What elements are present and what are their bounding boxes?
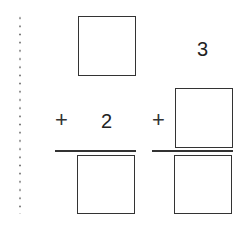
right-sum-answer-box[interactable] [174,155,232,214]
right-sum-line [152,150,233,152]
margin-dotted-line [19,14,21,214]
right-plus-sign: + [152,109,165,131]
left-plus-sign: + [55,109,68,131]
left-sum-answer-box[interactable] [77,155,135,214]
right-bottom-answer-box[interactable] [175,88,233,148]
right-top-addend: 3 [197,39,208,59]
left-sum-line [55,150,136,152]
left-bottom-addend: 2 [101,111,112,131]
left-top-answer-box[interactable] [78,16,136,76]
